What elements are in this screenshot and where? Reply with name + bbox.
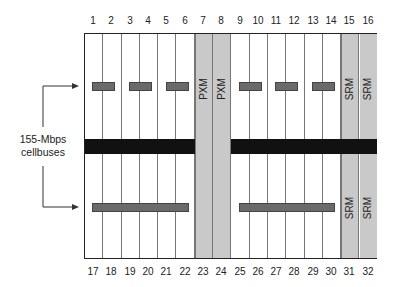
arrow-lower-line (43, 166, 76, 207)
arrow-head-upper-icon (72, 83, 79, 89)
arrow-head-lower-icon (72, 204, 79, 210)
callout-line-2: cellbuses (3, 146, 83, 159)
cellbus-callout-label: 155-Mbps cellbuses (3, 133, 83, 159)
callout-line-1: 155-Mbps (3, 133, 83, 146)
arrow-upper-line (43, 86, 76, 127)
